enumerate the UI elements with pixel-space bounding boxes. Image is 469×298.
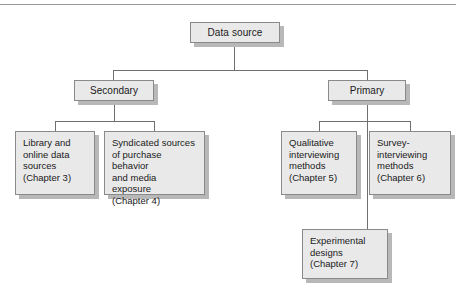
node-survey-label: Survey- interviewing methods (Chapter 6): [377, 137, 427, 183]
connector-primary-stem: [367, 101, 368, 121]
node-syndicated-sources[interactable]: Syndicated sources of purchase behavior …: [104, 131, 205, 195]
node-qualitative-label: Qualitative interviewing methods (Chapte…: [289, 137, 339, 183]
connector-root-bus: [113, 70, 368, 71]
connector-secondary-to-syndicated: [154, 121, 155, 131]
connector-primary-to-experimental: [367, 121, 368, 229]
connector-primary-bus: [319, 121, 411, 122]
node-primary[interactable]: Primary: [328, 80, 406, 101]
node-primary-label: Primary: [350, 85, 384, 97]
node-data-source-label: Data source: [207, 27, 262, 39]
node-secondary-label: Secondary: [90, 85, 138, 97]
figure-top-rule: [0, 4, 456, 5]
node-secondary[interactable]: Secondary: [74, 80, 154, 101]
node-experimental-designs[interactable]: Experimental designs (Chapter 7): [302, 229, 388, 279]
data-source-tree-diagram: Data source Secondary Primary Library an…: [0, 0, 469, 298]
connector-primary-to-qualitative: [319, 121, 320, 131]
connector-secondary-stem: [114, 101, 115, 121]
connector-primary-to-survey: [410, 121, 411, 131]
connector-secondary-to-library: [55, 121, 56, 131]
node-library-online-data-sources[interactable]: Library and online data sources (Chapter…: [15, 131, 95, 195]
node-library-label: Library and online data sources (Chapter…: [23, 137, 71, 183]
connector-root-to-secondary: [113, 70, 114, 80]
connector-root-stem: [234, 43, 235, 70]
node-experimental-label: Experimental designs (Chapter 7): [310, 235, 365, 270]
node-syndicated-label: Syndicated sources of purchase behavior …: [112, 137, 198, 206]
connector-secondary-bus: [55, 121, 155, 122]
connector-root-to-primary: [367, 70, 368, 80]
node-qualitative-interviewing-methods[interactable]: Qualitative interviewing methods (Chapte…: [281, 131, 357, 195]
node-survey-interviewing-methods[interactable]: Survey- interviewing methods (Chapter 6): [369, 131, 451, 195]
node-data-source[interactable]: Data source: [190, 22, 280, 43]
